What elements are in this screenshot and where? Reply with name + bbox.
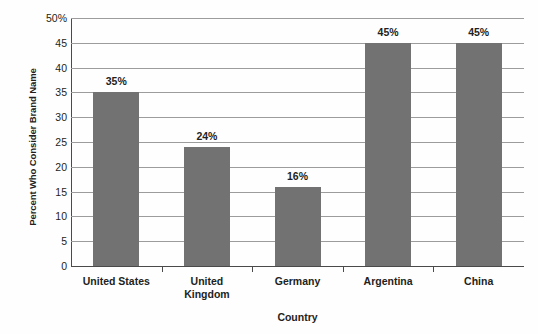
x-category-label: Germany	[252, 275, 343, 288]
bar-value-label: 24%	[167, 131, 247, 142]
y-tick-label: 25	[23, 137, 67, 147]
plot-area: 35%24%16%45%45%	[71, 18, 524, 266]
x-tick-mark	[343, 267, 344, 272]
bar-chart: Percent Who Consider Brand Name 05101520…	[0, 0, 538, 334]
x-tick-mark	[252, 267, 253, 272]
y-tick-label: 0	[23, 261, 67, 271]
x-category-label: UnitedKingdom	[162, 275, 253, 300]
y-tick-label: 45	[23, 38, 67, 48]
bar	[275, 187, 321, 266]
x-axis-line	[71, 266, 524, 267]
bar	[184, 147, 230, 266]
x-category-label: United States	[71, 275, 162, 288]
x-category-label: China	[433, 275, 524, 288]
x-tick-mark	[162, 267, 163, 272]
x-category-label: Argentina	[343, 275, 434, 288]
bar-value-label: 16%	[258, 171, 338, 182]
bar	[93, 92, 139, 266]
gridline	[71, 18, 524, 19]
bar	[365, 43, 411, 266]
y-axis-ticks: 05101520253035404550%	[16, 0, 67, 334]
x-tick-mark	[433, 267, 434, 272]
y-tick-label: 20	[23, 162, 67, 172]
y-tick-label: 50%	[23, 13, 67, 23]
x-axis-title: Country	[71, 311, 524, 323]
y-tick-label: 10	[23, 211, 67, 221]
bar-value-label: 45%	[439, 27, 519, 38]
bar-value-label: 45%	[348, 27, 428, 38]
y-tick-label: 5	[23, 236, 67, 246]
bar	[456, 43, 502, 266]
y-tick-label: 30	[23, 112, 67, 122]
y-tick-label: 35	[23, 87, 67, 97]
y-tick-label: 40	[23, 63, 67, 73]
y-tick-label: 15	[23, 187, 67, 197]
bar-value-label: 35%	[76, 76, 156, 87]
